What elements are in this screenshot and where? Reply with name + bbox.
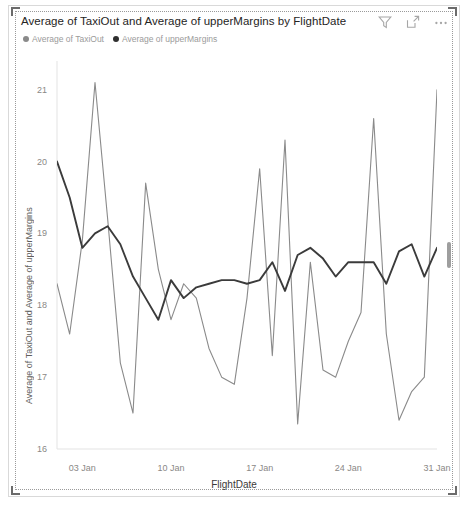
axis-lines [57, 61, 437, 449]
series-lines [57, 83, 437, 424]
x-axis-tick-labels: 03 Jan10 Jan17 Jan24 Jan31 Jan [69, 463, 451, 473]
x-tick-label: 03 Jan [69, 463, 96, 473]
y-tick-label: 17 [37, 372, 47, 382]
series-line[interactable] [57, 83, 437, 424]
chart-plot-region[interactable]: 161718192021 03 Jan10 Jan17 Jan24 Jan31 … [15, 51, 453, 491]
vertical-scrollbar-track[interactable] [447, 66, 451, 456]
resize-handle-top-left[interactable] [11, 7, 20, 16]
legend-item-uppermargins[interactable]: Average of upperMargins [113, 34, 217, 44]
line-chart-svg: 161718192021 03 Jan10 Jan17 Jan24 Jan31 … [15, 51, 453, 491]
filter-icon[interactable] [377, 14, 393, 30]
visual-title: Average of TaxiOut and Average of upperM… [21, 15, 346, 27]
visual-header-icons [377, 14, 449, 30]
x-tick-label: 24 Jan [335, 463, 362, 473]
x-tick-label: 17 Jan [246, 463, 273, 473]
y-tick-label: 19 [37, 228, 47, 238]
power-bi-visual-container[interactable]: Average of TaxiOut and Average of upperM… [8, 5, 460, 497]
legend-label-taxiout: Average of TaxiOut [32, 34, 104, 44]
x-tick-label: 10 Jan [157, 463, 184, 473]
legend-marker-taxiout [23, 36, 29, 42]
vertical-scrollbar-thumb[interactable] [447, 242, 451, 268]
more-options-icon[interactable] [433, 14, 449, 30]
y-tick-label: 16 [37, 444, 47, 454]
resize-handle-top-right[interactable] [448, 7, 457, 16]
y-axis-tick-labels: 161718192021 [37, 85, 47, 454]
legend-label-uppermargins: Average of upperMargins [122, 34, 217, 44]
x-tick-label: 31 Jan [423, 463, 450, 473]
y-axis-title: Average of TaxiOut and Average of upperM… [23, 181, 35, 431]
y-tick-label: 18 [37, 300, 47, 310]
x-axis-title: FlightDate [9, 479, 459, 490]
focus-mode-icon[interactable] [405, 14, 421, 30]
legend-marker-uppermargins [113, 36, 119, 42]
chart-legend: Average of TaxiOut Average of upperMargi… [23, 34, 217, 44]
y-tick-label: 20 [37, 157, 47, 167]
legend-item-taxiout[interactable]: Average of TaxiOut [23, 34, 104, 44]
y-tick-label: 21 [37, 85, 47, 95]
